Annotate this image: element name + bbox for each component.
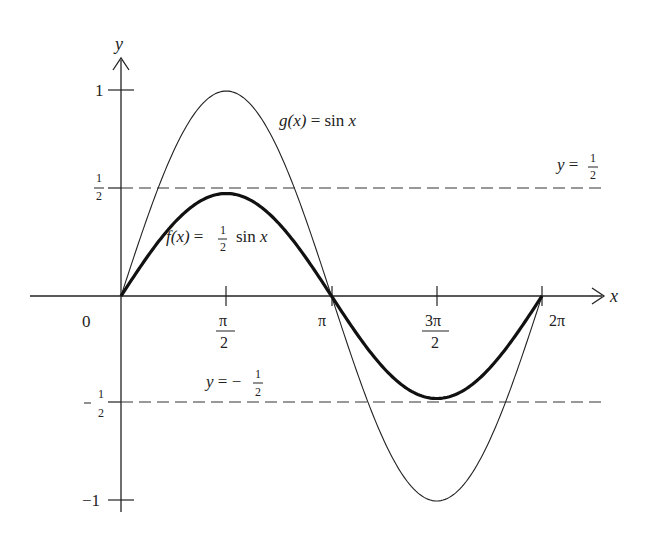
- ref-half-den: 2: [590, 168, 596, 182]
- f-annotation-den: 2: [220, 240, 226, 254]
- y-tick-label-neg-one: −1: [82, 491, 100, 510]
- sine-chart: y x 0 π 2 π 3π 2 2π 1 1 2 1 2 −1 g(x) = …: [0, 0, 645, 537]
- f-annotation-num: 1: [220, 223, 226, 237]
- ref-half-annotation: y =: [555, 155, 583, 174]
- y-tick-label-half-num: 1: [96, 171, 102, 185]
- x-tick-label-three-pi-half-den: 2: [431, 334, 439, 351]
- x-tick-label-two-pi: 2π: [549, 312, 565, 329]
- ref-neg-half-num: 1: [255, 367, 261, 381]
- x-tick-label-pi-half-den: 2: [220, 334, 228, 351]
- x-tick-label-pi-half-num: π: [219, 312, 227, 329]
- x-axis-label: x: [609, 286, 618, 306]
- x-tick-label-three-pi-half-num: 3π: [425, 312, 441, 329]
- y-tick-label-neg-half-den: 2: [98, 406, 104, 420]
- y-axis-label: y: [113, 34, 123, 54]
- f-annotation-rest: sin x: [236, 227, 268, 246]
- ref-neg-half-annotation: y = −: [204, 372, 241, 391]
- f-annotation-main: f(x) =: [166, 227, 208, 246]
- g-annotation: g(x) = sin x: [279, 111, 357, 130]
- y-tick-label-one: 1: [95, 81, 104, 100]
- y-tick-label-neg-half-num: 1: [98, 387, 104, 401]
- x-tick-label-origin: 0: [82, 312, 91, 331]
- y-tick-label-half-den: 2: [96, 189, 102, 203]
- x-tick-label-pi: π: [318, 312, 326, 329]
- ref-half-num: 1: [590, 151, 596, 165]
- ref-neg-half-den: 2: [255, 385, 261, 399]
